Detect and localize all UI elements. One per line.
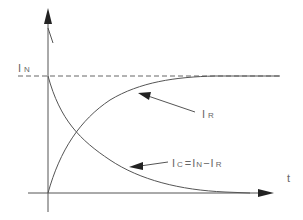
ir-label: IR [202, 108, 214, 120]
in-label: IN [18, 62, 30, 74]
ir-pointer-line [148, 96, 195, 112]
x-axis-arrow-icon [258, 189, 274, 197]
ir-pointer-arrow-icon [138, 92, 151, 100]
y-axis-arrow-icon [44, 8, 52, 24]
x-axis-label: t [287, 172, 290, 184]
ir-curve [48, 76, 280, 193]
ic-pointer-arrow-icon [129, 162, 143, 170]
ic-pointer-line [140, 162, 168, 166]
ic-equation-label: IC=IN−IR [172, 157, 222, 169]
y-axis-tick [48, 28, 53, 43]
current-time-diagram: IN IR IC=IN−IR t [0, 0, 303, 220]
